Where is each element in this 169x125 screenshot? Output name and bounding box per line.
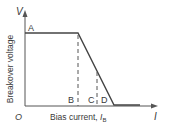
breakover-curve: [25, 33, 140, 105]
y-axis-symbol: V: [16, 6, 24, 17]
y-axis-label: Breakover voltage: [5, 34, 15, 103]
x-axis-symbol: I: [154, 111, 157, 122]
point-a-label: A: [28, 23, 34, 33]
point-d-label: D: [101, 95, 108, 105]
point-c-label: C: [88, 95, 95, 105]
breakover-diagram: V Breakover voltage A B C D O Bias curre…: [0, 0, 169, 125]
point-b-label: B: [68, 95, 74, 105]
x-axis-label-text: Bias current,: [50, 112, 100, 122]
x-axis-arrow-icon: [151, 104, 158, 109]
x-axis-label: Bias current, IB: [50, 112, 106, 123]
origin-label: O: [15, 112, 22, 122]
x-axis-label-subscript: B: [102, 117, 106, 123]
y-axis-arrow-icon: [23, 10, 28, 17]
